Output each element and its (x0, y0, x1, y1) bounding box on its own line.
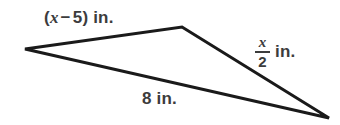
length-value: 8 (142, 89, 152, 108)
unit-inches: in. (93, 8, 113, 27)
constant-5: 5 (73, 8, 83, 27)
fraction-x-over-2: x 2 (255, 35, 270, 69)
unit-inches: in. (157, 89, 177, 108)
paren-close: ) (82, 8, 88, 27)
operator-minus: − (59, 8, 73, 27)
side-label-bottom: 8 in. (142, 90, 177, 107)
fraction-denominator: 2 (257, 53, 268, 69)
variable-x: x (50, 8, 59, 27)
side-label-top: (x−5) in. (44, 9, 114, 26)
fraction-numerator: x (258, 35, 268, 51)
unit-inches: in. (275, 43, 295, 60)
side-label-right: x 2 in. (255, 34, 295, 68)
geometry-figure: (x−5) in. 8 in. x 2 in. (0, 0, 340, 125)
